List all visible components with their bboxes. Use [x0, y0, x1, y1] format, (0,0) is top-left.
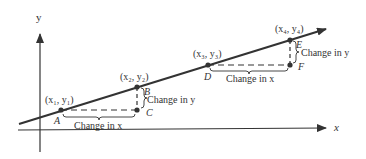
point-d — [205, 62, 210, 67]
slope-triangle-1: (x₁, y₁) (x₂, y₂) A B C Change in x Chan… — [45, 71, 195, 131]
coord-label-1: (x₁, y₁) — [45, 94, 74, 106]
run-label-2: Change in x — [226, 73, 274, 84]
slope-diagram: y x (x₁, y₁) (x₂, y₂) A B C Change in x … — [0, 0, 366, 159]
diagram-canvas: y x (x₁, y₁) (x₂, y₂) A B C Change in x … — [0, 0, 366, 159]
rise-label-1: Change in y — [147, 94, 195, 105]
slope-triangle-2: (x₃, y₃) (x₄, y₄) D E F Change in x Chan… — [193, 23, 349, 84]
coord-label-4: (x₄, y₄) — [275, 23, 304, 35]
letter-f: F — [297, 61, 305, 72]
point-c — [134, 107, 139, 112]
point-b — [134, 84, 139, 89]
coord-label-2: (x₂, y₂) — [120, 71, 149, 83]
run-label-1: Change in x — [74, 120, 122, 131]
point-a — [58, 107, 63, 112]
rise-label-2: Change in y — [301, 47, 349, 58]
x-axis — [18, 128, 326, 130]
letter-c: C — [146, 107, 153, 118]
y-axis-label: y — [36, 11, 42, 23]
x-axis-label: x — [333, 121, 339, 133]
letter-d: D — [203, 71, 212, 82]
point-f — [287, 62, 292, 67]
letter-a: A — [53, 115, 61, 126]
coord-label-3: (x₃, y₃) — [193, 48, 222, 60]
point-e — [287, 37, 292, 42]
